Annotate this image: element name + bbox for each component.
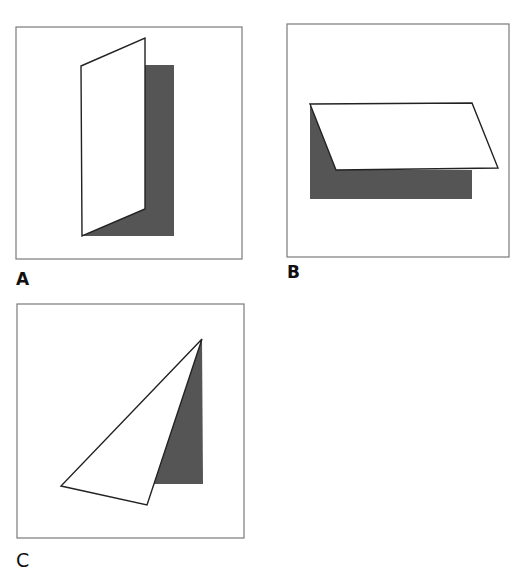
panel-b-label: B <box>287 264 300 281</box>
panel-a <box>16 27 242 259</box>
figure-svg <box>0 0 523 580</box>
panel-b <box>287 24 509 257</box>
panel-c <box>17 304 244 538</box>
panel-b-flap <box>310 103 498 170</box>
panel-a-label: A <box>16 271 29 288</box>
panel-a-flap <box>81 38 145 236</box>
panel-c-label: C <box>16 551 29 570</box>
figure: A B C <box>0 0 523 580</box>
